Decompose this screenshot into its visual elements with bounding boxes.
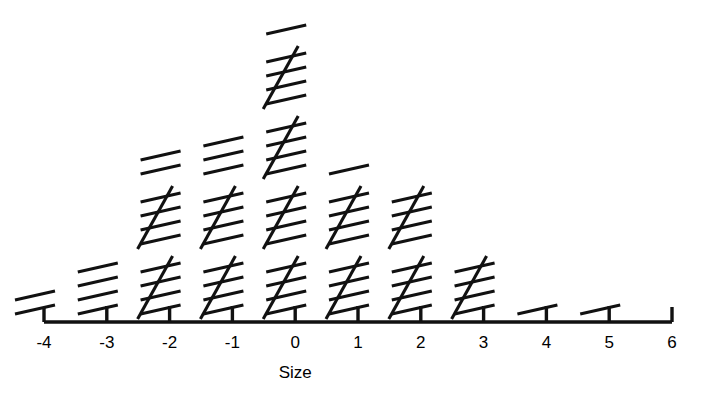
- tally-stroke: [392, 193, 432, 202]
- tally-stroke: [580, 305, 620, 314]
- x-axis-tick-label: 3: [464, 333, 504, 353]
- tally-stroke: [266, 81, 306, 90]
- tally-stroke: [329, 291, 369, 300]
- tally-column: [263, 25, 306, 319]
- tally-stroke: [266, 263, 306, 272]
- x-axis-tick-label: -2: [150, 333, 190, 353]
- tally-stroke: [329, 305, 369, 314]
- tally-stroke: [78, 291, 118, 300]
- tally-stroke: [455, 263, 495, 272]
- tally-stroke: [15, 291, 55, 300]
- tally-stroke: [329, 263, 369, 272]
- tally-stroke: [517, 305, 557, 314]
- tally-stroke: [329, 235, 369, 244]
- x-axis-tick-label: -4: [24, 333, 64, 353]
- tally-stroke: [15, 305, 55, 314]
- tally-marks-layer: [15, 25, 620, 319]
- tally-stroke: [141, 165, 181, 174]
- tally-column: [138, 151, 181, 319]
- tally-stroke: [329, 221, 369, 230]
- tally-stroke: [266, 193, 306, 202]
- tally-stroke: [392, 291, 432, 300]
- x-axis-tick-label: 4: [526, 333, 566, 353]
- x-axis-tick-label: 1: [338, 333, 378, 353]
- tally-stroke: [455, 291, 495, 300]
- tally-stroke: [141, 291, 181, 300]
- tally-stroke: [203, 263, 243, 272]
- tally-stroke: [266, 123, 306, 132]
- tally-stroke: [266, 95, 306, 104]
- tally-stroke: [203, 291, 243, 300]
- tally-column: [517, 305, 557, 314]
- tally-stroke: [78, 305, 118, 314]
- tally-stroke: [266, 25, 306, 34]
- tally-stroke: [392, 221, 432, 230]
- tally-stroke: [266, 291, 306, 300]
- tally-column: [580, 305, 620, 314]
- tally-stroke: [203, 137, 243, 146]
- tally-stroke: [78, 277, 118, 286]
- tally-stroke: [329, 165, 369, 174]
- tally-stroke: [203, 151, 243, 160]
- tally-stroke: [141, 305, 181, 314]
- tally-column: [389, 186, 432, 319]
- tally-stroke: [141, 263, 181, 272]
- tally-chart-figure: -4-3-2-10123456 Size: [0, 0, 704, 416]
- x-axis-tick-label: 2: [401, 333, 441, 353]
- tally-stroke: [203, 221, 243, 230]
- tally-stroke: [266, 305, 306, 314]
- tally-stroke: [266, 165, 306, 174]
- x-axis-tick-label: 5: [589, 333, 629, 353]
- tally-column: [15, 291, 55, 314]
- x-axis-title: Size: [195, 363, 395, 383]
- tally-stroke: [203, 235, 243, 244]
- x-axis-tick-label: 6: [652, 333, 692, 353]
- tally-stroke: [203, 165, 243, 174]
- x-axis-layer: [44, 306, 672, 322]
- tally-column: [200, 137, 243, 319]
- tally-stroke: [78, 263, 118, 272]
- tally-column: [326, 165, 369, 319]
- tally-stroke: [455, 305, 495, 314]
- tally-stroke: [392, 263, 432, 272]
- tally-stroke: [141, 235, 181, 244]
- tally-stroke: [392, 305, 432, 314]
- tally-column: [78, 263, 118, 314]
- tally-stroke: [329, 193, 369, 202]
- tally-plot-canvas: [0, 0, 704, 416]
- tally-stroke: [203, 193, 243, 202]
- tally-stroke: [141, 193, 181, 202]
- tally-stroke: [266, 151, 306, 160]
- tally-stroke: [392, 235, 432, 244]
- tally-stroke: [203, 305, 243, 314]
- tally-column: [452, 256, 495, 319]
- x-axis-tick-label: 0: [275, 333, 315, 353]
- tally-stroke: [266, 53, 306, 62]
- tally-stroke: [266, 235, 306, 244]
- tally-stroke: [141, 151, 181, 160]
- tally-stroke: [141, 221, 181, 230]
- x-axis-tick-label: -1: [212, 333, 252, 353]
- x-axis-tick-label: -3: [87, 333, 127, 353]
- tally-stroke: [266, 221, 306, 230]
